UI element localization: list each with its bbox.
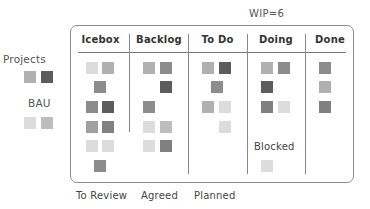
card-todo[interactable] [202, 101, 214, 113]
divider-todo-doing [247, 34, 248, 174]
legend-project-swatch-dark [41, 71, 53, 83]
card-icebox[interactable] [86, 62, 98, 74]
column-header-doing: Doing [247, 34, 305, 45]
legend-project-swatch-light [24, 71, 36, 83]
divider-icebox-backlog [129, 34, 130, 132]
card-icebox[interactable] [86, 140, 98, 152]
footer-to-review: To Review [76, 190, 127, 201]
card-icebox[interactable] [94, 160, 106, 172]
card-icebox[interactable] [102, 121, 114, 133]
card-backlog[interactable] [143, 62, 155, 74]
card-todo[interactable] [219, 121, 231, 133]
card-doing[interactable] [261, 62, 273, 74]
card-todo[interactable] [219, 101, 231, 113]
card-icebox[interactable] [86, 121, 98, 133]
card-done[interactable] [319, 81, 331, 93]
card-backlog[interactable] [143, 101, 155, 113]
card-icebox[interactable] [102, 101, 114, 113]
card-doing[interactable] [261, 101, 273, 113]
card-done[interactable] [319, 62, 331, 74]
card-backlog[interactable] [160, 81, 172, 93]
card-doing[interactable] [278, 101, 290, 113]
card-icebox[interactable] [102, 140, 114, 152]
card-doing-blocked[interactable] [261, 160, 273, 172]
legend-bau-swatch-mid [41, 117, 53, 129]
card-icebox[interactable] [94, 81, 106, 93]
divider-doing-done [305, 34, 306, 174]
card-icebox[interactable] [102, 62, 114, 74]
card-backlog[interactable] [143, 140, 155, 152]
footer-agreed: Agreed [141, 190, 178, 201]
card-todo[interactable] [219, 62, 231, 74]
card-todo[interactable] [211, 81, 223, 93]
card-done[interactable] [319, 101, 331, 113]
card-backlog[interactable] [160, 62, 172, 74]
card-todo[interactable] [202, 62, 214, 74]
column-header-todo: To Do [188, 34, 247, 45]
blocked-label: Blocked [254, 141, 295, 152]
legend-bau-label: BAU [28, 97, 51, 109]
card-doing[interactable] [278, 62, 290, 74]
card-backlog[interactable] [160, 140, 172, 152]
card-icebox[interactable] [86, 101, 98, 113]
legend-bau-swatch-light [24, 117, 36, 129]
legend-projects-label: Projects [3, 53, 46, 65]
footer-planned: Planned [194, 190, 236, 201]
column-header-icebox: Icebox [71, 34, 130, 45]
column-header-backlog: Backlog [130, 34, 188, 45]
card-doing[interactable] [261, 81, 273, 93]
wip-limit-label: WIP=6 [249, 8, 284, 19]
column-header-done: Done [305, 34, 355, 45]
card-backlog[interactable] [160, 121, 172, 133]
divider-backlog-todo [188, 34, 189, 174]
card-backlog[interactable] [143, 121, 155, 133]
